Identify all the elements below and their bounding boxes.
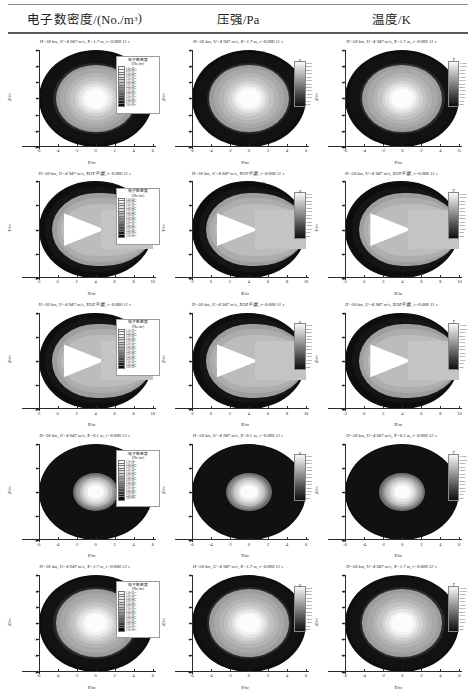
x-axis-tick-label: 10 [304, 411, 308, 416]
x-axis-tick [96, 144, 97, 147]
y-axis-tick-label: -6 [341, 144, 345, 149]
colorbar-temperature: T110001000090008000700060005000400030002… [448, 61, 460, 108]
x-axis-tick-label: -4 [209, 148, 213, 153]
y-axis-tick-label: 0 [189, 490, 191, 495]
y-axis-tick-label: 0 [343, 96, 345, 101]
x-axis-tick [459, 275, 460, 278]
y-axis-tick-label: -2 [341, 382, 345, 387]
x-axis-label: Y/m [394, 685, 402, 690]
x-axis-tick-label: 0 [95, 542, 97, 547]
x-axis-tick [440, 406, 441, 409]
subplot-caption: H=50 km, U=4 947 m/s, X=1.7 m, t=0.000 1… [193, 564, 283, 569]
x-axis-tick [345, 537, 346, 540]
y-axis-tick-label: 4 [36, 310, 38, 315]
x-axis-tick-label: -2 [228, 673, 232, 678]
plot-area: -6-4-20246-4-2024Y/mZ/mp5000460042003800… [172, 442, 311, 548]
y-axis-tick-label: 0 [189, 227, 191, 232]
subplot-caption: H=50 km, U=4 947 m/s, XOZ平面, t=0.000 11 … [345, 301, 437, 307]
y-axis-tick-label: 4 [343, 179, 345, 184]
y-axis-tick-label: -4 [187, 128, 191, 133]
colorbar-title: T [452, 188, 454, 193]
subplot-r4-p: H=50 km, U=4 947 m/s, X=0.1 m, t=0.000 1… [161, 430, 314, 561]
x-axis-tick [58, 537, 59, 540]
x-axis-tick [58, 669, 59, 672]
x-axis-tick [77, 144, 78, 147]
colorbar-tick-label: 250 [459, 497, 466, 500]
column-header-electron-density-text: 电子数密度/(No./m [27, 9, 134, 28]
x-axis-tick-label: 0 [248, 673, 250, 678]
x-axis-line [22, 146, 156, 147]
x-axis-line [328, 539, 462, 540]
y-axis-line [39, 50, 40, 149]
x-axis-tick-label: 2 [75, 411, 77, 416]
x-axis-tick [440, 144, 441, 147]
y-axis-label: Z/m [160, 93, 165, 101]
x-axis-tick-label: 6 [152, 542, 154, 547]
y-axis-tick-label: -2 [34, 637, 38, 642]
x-axis-tick [383, 144, 384, 147]
y-axis-tick-label: 4 [36, 589, 38, 594]
x-axis-tick [402, 144, 403, 147]
y-axis-label: Z/m [160, 618, 165, 626]
contour-ring [85, 89, 107, 107]
column-header-temperature: 温度/K [315, 6, 468, 31]
y-axis-tick-label: -6 [34, 144, 38, 149]
y-axis-tick-label: -4 [187, 407, 191, 412]
column-header-pressure-text: 压强/Pa [217, 9, 260, 28]
x-axis-tick [287, 144, 288, 147]
contour-ring [238, 614, 260, 632]
y-axis-tick-label: 2 [189, 465, 191, 470]
y-axis-tick-label: -6 [34, 669, 38, 674]
plot-area: -6-4-20246-6-4-20246Y/mZ/m电子数密度/(No./m³)… [19, 573, 158, 679]
y-axis-line [192, 313, 193, 412]
y-axis-tick-label: 2 [343, 465, 345, 470]
plot-area: -6-4-20246-6-4-20246Y/mZ/mT1100010000900… [326, 573, 465, 679]
x-axis-tick-label: 0 [401, 542, 403, 547]
x-axis-tick [39, 275, 40, 278]
x-axis-tick [230, 144, 231, 147]
plot-area: -6-4-20246-4-2024Y/mZ/mT1100010000900080… [326, 442, 465, 548]
x-axis-tick-label: 2 [229, 279, 231, 284]
colorbar-tick-label: 250 [459, 366, 466, 369]
x-axis-tick-label: 4 [401, 411, 403, 416]
x-axis-tick [249, 275, 250, 278]
legend-entry-label: 1.0×10¹² [126, 496, 136, 500]
x-axis-tick-label: 4 [286, 673, 288, 678]
x-axis-tick-label: 4 [95, 411, 97, 416]
y-axis-tick-label: 2 [36, 465, 38, 470]
x-axis-tick [96, 669, 97, 672]
y-axis-tick-label: -4 [34, 407, 38, 412]
legend-electron-density: 电子数密度/(No./m³)1.0×10¹⁹5.0×10¹⁸1.0×10¹⁸5.… [116, 188, 160, 245]
colorbar-title: p [299, 450, 301, 455]
y-axis-tick-label: 4 [189, 179, 191, 184]
legend-entries: 1.0×10¹⁹5.0×10¹⁸1.0×10¹⁸5.0×10¹⁷1.0×10¹⁷… [117, 592, 159, 631]
y-axis-tick-label: 0 [343, 358, 345, 363]
y-axis-tick-label: 6 [189, 48, 191, 53]
y-axis-tick-label: 4 [189, 310, 191, 315]
y-axis-tick-label: 0 [36, 227, 38, 232]
plot-area: -20246810-4-2024X/mY/mT11000100009000800… [326, 179, 465, 285]
x-axis-tick [249, 406, 250, 409]
x-axis-tick-label: 8 [439, 411, 441, 416]
y-axis-tick-label: -4 [187, 653, 191, 658]
contour-field [192, 444, 306, 541]
x-axis-line [175, 671, 309, 672]
y-axis-label: Y/m [160, 224, 165, 232]
x-axis-tick [39, 669, 40, 672]
plot-area: -20246810-4-2024X/mY/m电子数密度/(No./m³)1.0×… [19, 179, 158, 285]
x-axis-tick-label: -2 [228, 148, 232, 153]
subplot-r1-p: H=50 km, U=4 947 m/s, X=1.7 m, t=0.000 1… [161, 36, 314, 167]
y-axis-label: Z/m [7, 355, 12, 363]
x-axis-tick [383, 406, 384, 409]
x-axis-tick-label: -4 [362, 542, 366, 547]
legend-entry: 1.0×10¹² [117, 235, 159, 238]
x-axis-tick-label: 6 [305, 148, 307, 153]
contour-field [345, 50, 459, 147]
x-axis-tick [39, 406, 40, 409]
x-axis-tick [268, 275, 269, 278]
x-axis-line [175, 277, 309, 278]
y-axis-tick-label: 0 [343, 227, 345, 232]
colorbar-title: p [299, 582, 301, 587]
y-axis-tick-label: -2 [34, 112, 38, 117]
colorbar-title: p [299, 319, 301, 324]
